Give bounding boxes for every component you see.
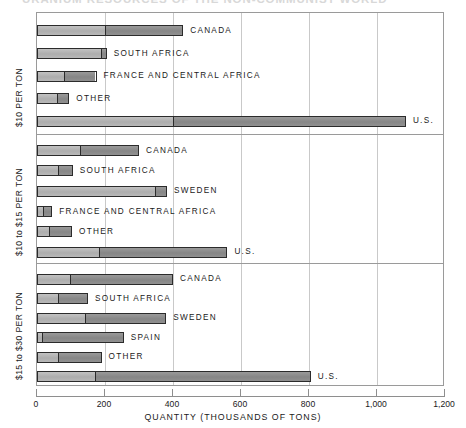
tick-0 xyxy=(36,389,37,397)
bar-segment-estimated-additional xyxy=(95,372,310,381)
bar-segment-reasonably-assured xyxy=(38,166,58,175)
bar-south-africa xyxy=(37,293,88,304)
cost-band-label: $10 PER TON xyxy=(14,68,24,127)
bar-segment-reasonably-assured xyxy=(38,353,58,362)
bar-segment-reasonably-assured xyxy=(38,275,70,284)
tick-200 xyxy=(104,389,105,397)
bar-segment-reasonably-assured xyxy=(38,146,80,155)
bar-label: FRANCE AND CENTRAL AFRICA xyxy=(104,70,261,81)
bar-south-africa xyxy=(37,48,107,59)
bar-label: FRANCE AND CENTRAL AFRICA xyxy=(59,206,216,217)
bar-spain xyxy=(37,332,124,343)
bar-canada xyxy=(37,274,173,285)
tick-label-600: 600 xyxy=(233,399,247,409)
bar-segment-reasonably-assured xyxy=(38,314,85,323)
bar-segment-estimated-additional xyxy=(80,146,138,155)
bar-label: OTHER xyxy=(79,226,114,237)
tick-label-200: 200 xyxy=(97,399,111,409)
tick-400 xyxy=(172,389,173,397)
tick-label-1000: 1,000 xyxy=(365,399,387,409)
bar-other xyxy=(37,226,72,237)
gridline-1000 xyxy=(377,13,378,385)
bar-segment-estimated-additional xyxy=(58,294,87,303)
tick-label-1200: 1,200 xyxy=(433,399,455,409)
plot-area: CANADASOUTH AFRICAFRANCE AND CENTRAL AFR… xyxy=(36,12,444,386)
bar-segment-estimated-additional xyxy=(99,248,227,257)
bar-label: CANADA xyxy=(190,25,232,36)
bar-sweden xyxy=(37,313,166,324)
gridline-600 xyxy=(241,13,242,385)
bar-segment-reasonably-assured xyxy=(38,248,99,257)
cost-band-label: $15 to $30 PER TON xyxy=(14,292,24,380)
bar-label: SOUTH AFRICA xyxy=(95,293,171,304)
bar-label: CANADA xyxy=(146,145,188,156)
bar-segment-estimated-additional xyxy=(70,275,172,284)
bar-label: SWEDEN xyxy=(174,185,218,196)
bar-segment-estimated-additional xyxy=(58,166,72,175)
bar-france-and-central-africa xyxy=(37,71,97,82)
bar-segment-estimated-additional xyxy=(173,117,405,126)
bar-segment-estimated-additional xyxy=(57,94,68,103)
bar-other xyxy=(37,352,102,363)
bar-label: CANADA xyxy=(180,273,222,284)
bar-segment-estimated-additional xyxy=(155,187,166,196)
bar-other xyxy=(37,93,69,104)
x-axis-title: QUANTITY (THOUSANDS OF TONS) xyxy=(0,412,466,422)
bar-segment-estimated-additional xyxy=(49,227,71,236)
bar-u-s- xyxy=(37,116,406,127)
uranium-resources-chart: URANIUM RESOURCES OF THE NON-COMMUNIST W… xyxy=(0,0,466,428)
bar-canada xyxy=(37,145,139,156)
bar-segment-estimated-additional xyxy=(42,333,123,342)
chart-title: URANIUM RESOURCES OF THE NON-COMMUNIST W… xyxy=(22,0,387,5)
bar-label: OTHER xyxy=(76,93,111,104)
bar-segment-reasonably-assured xyxy=(38,94,57,103)
bar-u-s- xyxy=(37,247,227,258)
bar-south-africa xyxy=(37,165,73,176)
bar-segment-estimated-additional xyxy=(58,353,100,362)
bar-segment-reasonably-assured xyxy=(38,72,64,81)
bar-segment-reasonably-assured xyxy=(38,227,49,236)
gridline-400 xyxy=(173,13,174,385)
tick-1200 xyxy=(444,389,445,397)
tick-label-800: 800 xyxy=(301,399,315,409)
bar-u-s- xyxy=(37,371,311,382)
bar-segment-reasonably-assured xyxy=(38,26,105,35)
cost-band-label: $10 to $15 PER TON xyxy=(14,168,24,256)
bar-label: U.S. xyxy=(413,115,434,126)
bar-segment-reasonably-assured xyxy=(38,117,173,126)
bar-segment-estimated-additional xyxy=(85,314,165,323)
bar-label: SOUTH AFRICA xyxy=(114,48,190,59)
gridline-200 xyxy=(105,13,106,385)
tick-label-0: 0 xyxy=(34,399,39,409)
bar-label: SOUTH AFRICA xyxy=(80,165,156,176)
bar-segment-reasonably-assured xyxy=(38,187,155,196)
bar-france-and-central-africa xyxy=(37,206,52,217)
panel-separator xyxy=(37,263,443,264)
bar-sweden xyxy=(37,186,167,197)
bar-segment-reasonably-assured xyxy=(38,372,95,381)
bar-canada xyxy=(37,25,183,36)
bar-label: U.S. xyxy=(234,246,255,257)
bar-label: OTHER xyxy=(109,351,144,362)
tick-800 xyxy=(308,389,309,397)
bar-segment-estimated-additional xyxy=(101,49,105,58)
tick-600 xyxy=(240,389,241,397)
tick-label-400: 400 xyxy=(165,399,179,409)
tick-1000 xyxy=(376,389,377,397)
bar-segment-reasonably-assured xyxy=(38,294,58,303)
gridline-800 xyxy=(309,13,310,385)
bar-label: U.S. xyxy=(318,371,339,382)
bar-segment-estimated-additional xyxy=(43,207,51,216)
bar-segment-reasonably-assured xyxy=(38,49,101,58)
bar-segment-estimated-additional xyxy=(64,72,95,81)
bar-label: SWEDEN xyxy=(173,312,217,323)
bar-label: SPAIN xyxy=(131,332,161,343)
bar-segment-estimated-additional xyxy=(105,26,182,35)
panel-separator xyxy=(37,134,443,135)
